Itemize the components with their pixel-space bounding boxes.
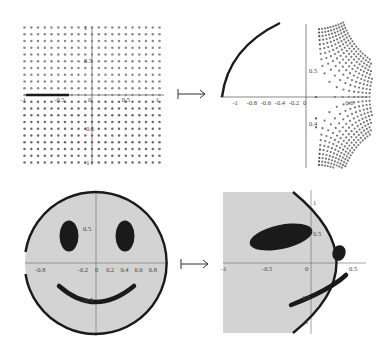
grid-dot	[71, 87, 74, 90]
grid-dot	[131, 107, 134, 110]
mapped-dot	[339, 79, 341, 81]
grid-dot	[152, 101, 155, 104]
mapped-dot	[321, 164, 323, 166]
mapped-dot	[320, 58, 322, 60]
mapped-dot	[319, 48, 321, 50]
grid-dot	[158, 141, 161, 144]
grid-dot	[37, 134, 40, 137]
mapped-dot	[353, 53, 355, 55]
mapped-dot	[342, 35, 344, 37]
y-tick: 1	[84, 24, 87, 31]
grid-dot	[152, 67, 155, 70]
mapped-dot	[367, 131, 369, 133]
grid-dot	[30, 47, 33, 50]
mapped-dot	[339, 155, 341, 157]
grid-dot	[23, 87, 26, 90]
grid-dot	[104, 87, 107, 90]
grid-dot	[104, 161, 107, 164]
mapped-dot	[346, 142, 348, 144]
grid-dot	[30, 101, 33, 104]
grid-dot	[57, 148, 60, 151]
mapped-dot	[334, 139, 336, 141]
mapped-dot	[342, 74, 344, 76]
grid-dot	[131, 121, 134, 124]
mapped-dot	[342, 103, 344, 105]
grid-dot	[138, 107, 141, 110]
mapped-dot	[348, 144, 350, 146]
grid-dot	[91, 155, 94, 158]
mapped-dot	[357, 67, 359, 69]
panel-bottom-right: -1 -0.5 0 0.5 1 0.5 -0.5 -1	[221, 190, 366, 334]
mapped-dot	[359, 63, 361, 65]
x-tick: -0.4	[275, 99, 286, 106]
maps-to-arrow-top	[178, 89, 205, 99]
grid-dot	[152, 33, 155, 36]
mapped-dot	[348, 65, 350, 67]
mapped-dot	[318, 28, 320, 30]
grid-dot	[131, 53, 134, 56]
grid-dot	[37, 155, 40, 158]
mapped-dot	[366, 72, 368, 74]
grid-dot	[71, 148, 74, 151]
mapped-dot	[353, 117, 355, 119]
grid-dot	[77, 161, 80, 164]
mapped-dot	[334, 96, 336, 98]
grid-dot	[91, 134, 94, 137]
mapped-dot	[322, 157, 324, 159]
grid-dot	[50, 121, 53, 124]
grid-dot	[125, 26, 128, 29]
grid-dot	[50, 101, 53, 104]
mapped-dot	[366, 64, 368, 66]
mapped-dot	[351, 130, 353, 132]
mapped-dot	[342, 118, 344, 120]
grid-dot	[125, 128, 128, 131]
mapped-dot	[355, 70, 357, 72]
mapped-dot	[345, 136, 347, 138]
grid-dot	[84, 155, 87, 158]
mapped-dot	[329, 37, 331, 39]
grid-dot	[57, 60, 60, 63]
mapped-dot	[336, 86, 338, 88]
grid-dot	[30, 114, 33, 117]
grid-dot	[64, 67, 67, 70]
grid-dot	[44, 107, 47, 110]
mapped-dot	[349, 108, 351, 110]
mapped-dot	[343, 140, 345, 142]
grid-dot	[125, 114, 128, 117]
mapped-dot	[366, 84, 368, 86]
grid-dot	[30, 40, 33, 43]
grid-dot	[84, 87, 87, 90]
grid-dot	[158, 40, 161, 43]
mapped-dot	[320, 53, 322, 55]
grid-dot	[111, 40, 114, 43]
mapped-dot	[342, 157, 344, 159]
mapped-dot	[348, 35, 350, 37]
mapped-dot	[360, 132, 362, 134]
mapped-dot	[345, 41, 347, 43]
grid-dot	[84, 33, 87, 36]
grid-dot	[23, 40, 26, 43]
mapped-dot	[319, 144, 321, 146]
grid-dot	[118, 155, 121, 158]
grid-dot	[131, 134, 134, 137]
mapped-dot	[334, 53, 336, 55]
mapped-dot	[342, 58, 344, 60]
grid-dot	[98, 87, 101, 90]
grid-dot	[44, 47, 47, 50]
mapped-dot	[328, 111, 330, 113]
mapped-dot	[342, 89, 344, 91]
panel-bottom-left: -0.8-0.200.20.40.60.8 0.5 -0.5	[25, 191, 168, 336]
mapped-dot	[335, 157, 337, 159]
grid-dot	[71, 107, 74, 110]
grid-dot	[98, 67, 101, 70]
grid-dot	[37, 47, 40, 50]
grid-dot	[138, 134, 141, 137]
mapped-dot	[351, 79, 353, 81]
mapped-dot	[344, 110, 346, 112]
grid-dot	[44, 148, 47, 151]
mapped-dot	[336, 145, 338, 147]
mapped-dot	[368, 66, 370, 68]
grid-dot	[131, 26, 134, 29]
grid-dot	[145, 155, 148, 158]
grid-dot	[71, 26, 74, 29]
